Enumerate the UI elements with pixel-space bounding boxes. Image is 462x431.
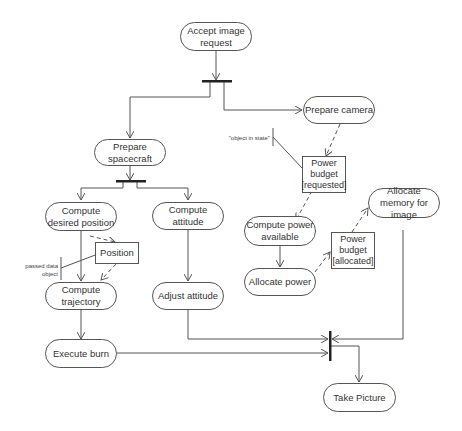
action-label: Allocate power [249,276,311,288]
action-take-picture[interactable]: Take Picture [323,383,396,412]
action-prepare-camera[interactable]: Prepare camera [303,96,375,124]
fork-bar-2 [116,180,146,183]
action-label: Compute desired position [46,205,116,229]
object-label: Power budget [allocated] [332,234,374,267]
action-adjust-attitude[interactable]: Adjust attitude [152,282,224,310]
action-label: Compute trajectory [46,284,116,308]
action-accept-image-request[interactable]: Accept image request [180,22,252,51]
object-power-budget-requested[interactable]: Power budget [requested] [302,156,346,193]
action-label: Compute attitude [153,204,223,228]
object-position[interactable]: Position [95,242,139,264]
flow-fork2-to-desired-position [81,182,123,200]
note-object-in-state: "object in state" [226,134,270,142]
note-line-passed-data [61,254,98,268]
action-label: Adjust attitude [158,290,218,302]
flow-join-to-take-picture [331,346,359,382]
action-allocate-memory[interactable]: Allocate memory for image [368,188,440,218]
objflow-allocate-to-budget [315,252,330,272]
objflow-camera-to-budget [326,124,340,156]
action-label: Execute burn [53,348,109,360]
action-prepare-spacecraft[interactable]: Prepare spacecraft [94,139,166,166]
note-passed-data-object: passed data object [18,262,58,278]
flow-fork-to-prepare-spacecraft [130,81,210,138]
object-power-budget-allocated[interactable]: Power budget [allocated] [331,232,375,269]
action-label: Prepare spacecraft [95,141,165,165]
objflow-budget-to-memory [352,208,368,232]
object-label: Position [100,247,134,259]
flow-adjust-to-join [188,310,328,339]
action-label: Allocate memory for image [369,185,439,221]
action-compute-trajectory[interactable]: Compute trajectory [45,282,117,310]
object-label: Power budget [requested] [301,158,346,191]
note-line-object-in-state [273,137,302,168]
action-label: Take Picture [333,392,385,404]
flow-fork2-to-attitude [137,182,188,200]
join-bar [329,331,332,361]
action-label: Prepare camera [305,104,373,116]
action-label: Compute power available [245,219,315,243]
action-compute-power-available[interactable]: Compute power available [244,216,316,246]
action-execute-burn[interactable]: Execute burn [45,339,117,368]
fork-bar-1 [202,80,232,83]
action-compute-attitude[interactable]: Compute attitude [152,202,224,230]
action-allocate-power[interactable]: Allocate power [244,268,316,296]
action-compute-desired-position[interactable]: Compute desired position [45,202,117,231]
action-label: Accept image request [181,25,251,49]
objflow-position-to-trajectory [101,264,116,280]
flow-fork-to-prepare-camera [224,81,302,110]
